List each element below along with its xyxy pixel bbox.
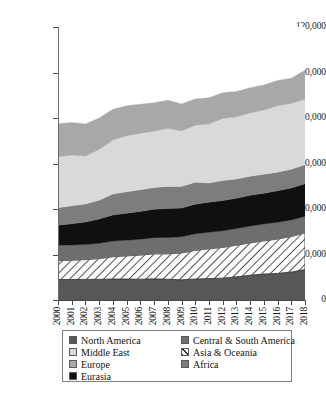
x-axis-tick (291, 301, 292, 305)
area-series-group (58, 27, 305, 300)
x-axis-tick-label: 2016 (273, 307, 283, 325)
x-axis-tick (223, 301, 224, 305)
x-axis-tick (99, 301, 100, 305)
x-axis-tick-label: 2011 (204, 307, 214, 325)
eu-swatch-icon (69, 360, 77, 368)
plot-area (58, 27, 305, 300)
legend-label: North America (81, 335, 141, 346)
x-axis-tick-label: 2007 (149, 307, 159, 325)
legend-column-left: North AmericaMiddle EastEuropeEurasia (69, 334, 141, 382)
x-axis-tick (140, 301, 141, 305)
x-axis-tick (85, 301, 86, 305)
legend-column-right: Central & South AmericaAsia & OceaniaAfr… (181, 334, 295, 370)
x-axis-tick (58, 301, 59, 305)
legend-item-north-america[interactable]: North America (69, 334, 141, 346)
x-axis-tick (264, 301, 265, 305)
x-axis-tick (154, 301, 155, 305)
na-swatch-icon (69, 336, 77, 344)
legend-label: Eurasia (81, 371, 111, 382)
y-axis-line (58, 27, 59, 301)
x-axis-tick-label: 2002 (80, 307, 90, 325)
x-axis-tick-label: 2018 (300, 307, 310, 325)
x-axis-tick (250, 301, 251, 305)
x-axis-tick-label: 2009 (177, 307, 187, 325)
x-axis-tick-label: 2013 (231, 307, 241, 325)
x-axis-tick-label: 2015 (259, 307, 269, 325)
x-axis-tick-label: 2003 (94, 307, 104, 325)
x-axis-tick (278, 301, 279, 305)
x-axis-tick (195, 301, 196, 305)
me-swatch-icon (69, 348, 77, 356)
x-axis-tick (182, 301, 183, 305)
ao-swatch-icon (181, 348, 189, 356)
x-axis-tick-label: 2014 (245, 307, 255, 325)
eurasia-swatch-icon (69, 372, 77, 380)
x-axis-tick (168, 301, 169, 305)
x-axis-tick (236, 301, 237, 305)
legend-item-middle-east[interactable]: Middle East (69, 346, 141, 358)
legend-label: Central & South America (193, 335, 295, 346)
legend-item-asia-and-oceania[interactable]: Asia & Oceania (181, 346, 295, 358)
legend-item-central-and-south-america[interactable]: Central & South America (181, 334, 295, 346)
x-axis-tick-label: 2008 (163, 307, 173, 325)
legend-item-europe[interactable]: Europe (69, 358, 141, 370)
legend-label: Middle East (81, 347, 130, 358)
x-axis-tick-label: 2012 (218, 307, 228, 325)
africa-swatch-icon (181, 360, 189, 368)
x-axis-tick (305, 301, 306, 305)
x-axis-tick-label: 2001 (67, 307, 77, 325)
x-axis-tick (113, 301, 114, 305)
x-axis-tick-label: 2006 (135, 307, 145, 325)
x-axis-tick-label: 2004 (108, 307, 118, 325)
x-axis-tick-label: 2017 (286, 307, 296, 325)
x-axis-tick (209, 301, 210, 305)
legend: North AmericaMiddle EastEuropeEurasia Ce… (62, 330, 292, 382)
csa-swatch-icon (181, 336, 189, 344)
legend-label: Europe (81, 359, 110, 370)
x-axis-tick (72, 301, 73, 305)
legend-label: Africa (193, 359, 219, 370)
x-axis-tick-label: 2000 (53, 307, 63, 325)
legend-item-eurasia[interactable]: Eurasia (69, 370, 141, 382)
x-axis-tick (127, 301, 128, 305)
x-axis-tick-label: 2005 (122, 307, 132, 325)
x-axis-tick-label: 2010 (190, 307, 200, 325)
legend-item-africa[interactable]: Africa (181, 358, 295, 370)
stacked-area-chart: 020,00040,00060,00080,000100,000120,000 … (0, 0, 326, 396)
legend-label: Asia & Oceania (193, 347, 257, 358)
